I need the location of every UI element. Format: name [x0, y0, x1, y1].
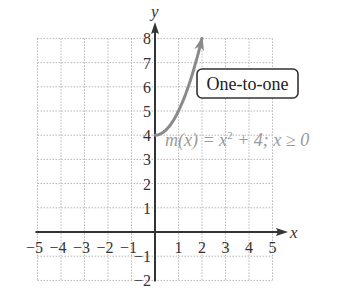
one-to-one-badge: One-to-one — [197, 69, 298, 98]
badge-label: One-to-one — [207, 74, 289, 94]
x-tick-label: 4 — [245, 239, 253, 256]
y-tick-label: 4 — [143, 127, 151, 144]
function-label: m(x) = x2 + 4; x ≥ 0 — [165, 129, 309, 151]
x-axis-label: x — [289, 223, 298, 242]
x-tick-label: −5 — [26, 239, 43, 256]
y-tick-label: 2 — [143, 176, 151, 193]
y-tick-label: 6 — [143, 79, 151, 96]
function-label-pre: m(x) = x — [165, 130, 227, 151]
function-graph: −5−4−3−2−112345−2−112345678 One-to-one m… — [0, 0, 348, 301]
x-tick-label: 2 — [198, 239, 206, 256]
y-tick-label: 5 — [143, 103, 151, 120]
x-tick-label: 5 — [269, 239, 277, 256]
y-tick-label: 8 — [143, 30, 151, 47]
x-tick-label: −3 — [73, 239, 90, 256]
function-label-post: + 4; x ≥ 0 — [233, 130, 310, 150]
y-axis-label: y — [149, 2, 159, 21]
x-tick-label: 1 — [175, 239, 183, 256]
y-tick-label: 1 — [143, 200, 151, 217]
x-tick-label: 3 — [222, 239, 230, 256]
x-tick-label: −4 — [49, 239, 66, 256]
x-tick-label: −2 — [96, 239, 113, 256]
y-tick-label: 7 — [143, 55, 151, 72]
y-tick-label: −2 — [134, 272, 151, 289]
y-tick-label: 3 — [143, 151, 151, 168]
y-tick-label: −1 — [134, 248, 151, 265]
